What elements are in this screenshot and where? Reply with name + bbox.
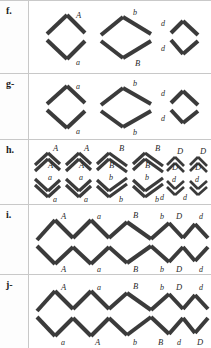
label-h6-b: D	[194, 162, 202, 172]
chevron-pair-5: D D d d	[160, 146, 184, 202]
panel-label-i: i.	[0, 205, 28, 274]
chevron-pair-2: A A a a	[66, 143, 91, 204]
label-j-top-1: A	[60, 282, 67, 292]
label-h4-b: B	[145, 160, 150, 170]
panel-row-h: h. A A a a	[0, 139, 211, 204]
label-i-bot-2: a	[97, 265, 101, 274]
panel-body-f: A a b B d	[28, 1, 211, 73]
label-h5-d: d	[160, 193, 165, 202]
diamond-2: b b	[101, 79, 151, 137]
label-j-top-3: B	[133, 281, 138, 291]
label-h6-d: d	[183, 193, 188, 202]
chevron-pair-4: B B b b	[133, 143, 163, 204]
label-diamond-1-bottom: a	[76, 58, 80, 67]
chevron-pair-6: D D d d	[183, 146, 207, 202]
label-i-bot-6: d	[199, 265, 204, 274]
label-j-bot-5: d	[177, 338, 182, 347]
panel-label-j: j-	[0, 275, 28, 348]
panel-body-h: A A a a A A a a	[28, 140, 211, 204]
diagram-g: a a b b d d	[29, 74, 211, 139]
label-diamond-2-bottom: b	[133, 128, 137, 137]
label-i-bot-5: D	[175, 264, 183, 274]
diamond-1: A a	[47, 10, 85, 67]
zigzag-chain-bottom	[37, 246, 208, 264]
zigzag-chain-bottom	[37, 317, 208, 336]
panel-row-f: f. A a b B	[0, 0, 211, 73]
label-h1-a: A	[52, 143, 59, 153]
panel-row-i: i.	[0, 204, 211, 274]
label-diamond-3-top: d	[161, 89, 166, 98]
diamond-1: a a	[47, 82, 85, 136]
label-h3-d: b	[119, 195, 123, 204]
diamond-3: d d	[161, 19, 198, 54]
label-i-bot-3: B	[133, 264, 138, 274]
label-h3-b: B	[109, 160, 114, 170]
label-h1-b: A	[47, 160, 54, 170]
label-diamond-2-top: b	[133, 79, 137, 88]
label-j-top-5: D	[175, 282, 183, 292]
label-h2-c: a	[79, 173, 83, 182]
diagram-i: A a B b D d A a B b D d	[29, 205, 211, 274]
diamond-2: b B	[101, 8, 151, 68]
label-h4-a: B	[155, 143, 160, 153]
panel-label-g: g-	[0, 74, 28, 139]
panel-body-i: A a B b D d A a B b D d	[28, 205, 211, 274]
label-i-top-5: D	[175, 211, 183, 221]
panel-body-j: A a B b D d a A b B d D	[28, 275, 211, 348]
panel-label-f: f.	[0, 1, 28, 73]
label-j-bot-4: B	[158, 337, 163, 347]
diagram-h: A A a a A A a a	[29, 140, 211, 204]
panel-row-j: j-	[0, 274, 211, 348]
label-diamond-3-bottom: d	[161, 114, 166, 123]
label-i-bot-4: b	[160, 265, 164, 274]
label-h4-d: b	[155, 195, 159, 204]
label-j-top-4: b	[160, 283, 164, 292]
label-h6-a: D	[199, 146, 207, 156]
label-diamond-3-bottom: d	[161, 44, 166, 53]
label-i-top-4: b	[160, 212, 164, 221]
chevron-pair-1: A A a a	[35, 143, 60, 204]
label-h3-c: b	[109, 173, 113, 182]
label-j-bot-6: D	[196, 337, 204, 347]
label-h2-d: a	[84, 195, 88, 204]
label-j-bot-1: a	[61, 338, 65, 347]
label-i-top-2: a	[97, 212, 101, 221]
label-diamond-1-bottom: a	[76, 127, 80, 136]
label-h5-c: d	[172, 175, 177, 184]
label-diamond-1-top: A	[75, 10, 82, 20]
label-diamond-2-bottom: B	[135, 58, 140, 68]
label-diamond-3-top: d	[161, 19, 166, 28]
label-i-top-6: d	[199, 212, 204, 221]
figure-panel-grid: f. A a b B	[0, 0, 211, 348]
label-i-top-3: B	[133, 210, 138, 220]
label-h2-b: A	[78, 160, 85, 170]
panel-body-g: a a b b d d	[28, 74, 211, 139]
label-j-top-6: d	[199, 283, 204, 292]
label-h4-c: b	[145, 173, 149, 182]
label-h5-b: D	[171, 162, 179, 172]
label-i-top-1: A	[60, 211, 67, 221]
label-i-bot-1: A	[60, 264, 67, 274]
label-diamond-2-top: b	[133, 8, 137, 17]
label-diamond-1-top: a	[76, 82, 80, 91]
chevron-pair-3: B B b b	[97, 143, 127, 204]
zigzag-chain-top	[37, 220, 208, 240]
label-h6-c: d	[195, 175, 200, 184]
diagram-j: A a B b D d a A b B d D	[29, 275, 211, 348]
label-h5-a: D	[176, 146, 184, 156]
label-j-bot-2: A	[94, 337, 101, 347]
panel-label-h: h.	[0, 140, 28, 204]
label-h1-c: a	[48, 173, 52, 182]
label-j-bot-3: b	[133, 338, 137, 347]
diamond-3: d d	[161, 89, 198, 123]
diagram-f: A a b B d	[29, 1, 211, 73]
label-j-top-2: a	[97, 283, 101, 292]
label-h2-a: A	[83, 143, 90, 153]
label-h1-d: a	[53, 195, 57, 204]
label-h3-a: B	[119, 143, 124, 153]
zigzag-chain-top	[37, 291, 208, 311]
panel-row-g: g- a a b b	[0, 73, 211, 139]
